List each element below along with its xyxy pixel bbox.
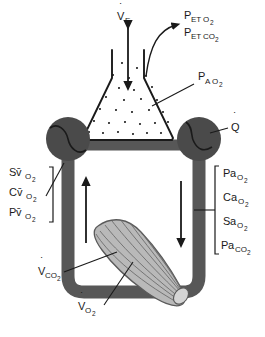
alveolar-o2-sub-gas: O xyxy=(212,77,218,86)
venous-cvo2-sub-num: 2 xyxy=(33,196,37,203)
ventilation-subscript: E xyxy=(125,16,130,25)
venous-cvo2-sub-v: v̄ xyxy=(17,186,23,198)
venous-cvo2-base: C xyxy=(9,186,17,198)
heart-pump-left xyxy=(46,117,90,161)
venous-pvo2-sub-gas: O xyxy=(25,212,31,221)
end-tidal-co2-sub-et: ET xyxy=(191,32,201,41)
heart-pump-right xyxy=(177,117,221,161)
alveolar-o2-sub-a: A xyxy=(205,77,211,86)
cardiac-output-base: Q xyxy=(231,121,240,133)
diagram-canvas: ˙ V E P ET O 2 P ET CO 2 P A O 2 ˙ Q xyxy=(0,0,265,337)
arterial-paco2-sub-num: 2 xyxy=(247,249,251,256)
arterial-sao2-sub-num: 2 xyxy=(244,225,248,232)
right-pump-body xyxy=(177,117,221,161)
end-tidal-co2-sub-num: 2 xyxy=(215,36,219,43)
arterial-cao2-sub-gas: O xyxy=(238,197,244,206)
arterial-pao2-sub-a: a xyxy=(230,167,237,179)
end-tidal-co2-sub-gas: CO xyxy=(203,32,215,41)
arterial-cao2-base: C xyxy=(223,191,231,203)
end-tidal-o2-sub-et: ET xyxy=(191,15,201,24)
venous-cvo2-sub-gas: O xyxy=(26,192,32,201)
arterial-paco2-sub-gas: CO xyxy=(235,245,247,254)
venous-svo2-sub-v: v̄ xyxy=(16,166,22,178)
end-tidal-o2-sub-gas: O xyxy=(203,15,209,24)
arterial-paco2-sub-a: a xyxy=(228,239,235,251)
arterial-cao2-sub-num: 2 xyxy=(245,201,249,208)
co2-production-sub-gas: CO xyxy=(45,271,57,280)
physiology-diagram: ˙ V E P ET O 2 P ET CO 2 P A O 2 ˙ Q xyxy=(0,0,265,337)
arterial-sao2-sub-a: a xyxy=(230,215,237,227)
alveolar-o2-sub-num: 2 xyxy=(219,81,223,88)
arterial-cao2-sub-a: a xyxy=(231,191,238,203)
arterial-pao2-sub-num: 2 xyxy=(244,177,248,184)
venous-svo2-sub-num: 2 xyxy=(32,176,36,183)
co2-production-sub-num: 2 xyxy=(57,275,61,282)
venous-svo2-sub-gas: O xyxy=(25,172,31,181)
ventilation-base: V xyxy=(117,10,125,22)
o2-consumption-sub-num: 2 xyxy=(92,310,96,317)
arterial-pao2-sub-gas: O xyxy=(237,173,243,182)
end-tidal-o2-sub-num: 2 xyxy=(210,19,214,26)
arterial-sao2-sub-gas: O xyxy=(237,221,243,230)
o2-consumption-sub-gas: O xyxy=(85,306,91,315)
venous-pvo2-sub-num: 2 xyxy=(32,216,36,223)
venous-pvo2-sub-v: v̄ xyxy=(16,206,22,218)
